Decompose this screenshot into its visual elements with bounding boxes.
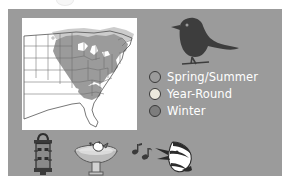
bird-beak: [171, 25, 180, 30]
bird-bath-icon[interactable]: [72, 140, 120, 176]
legend-label-spring-summer: Spring/Summer: [167, 71, 258, 84]
range-map: [22, 18, 137, 130]
year-round-swatch: [149, 88, 161, 100]
bird-perch: [182, 62, 209, 64]
legend-label-winter: Winter: [167, 105, 206, 118]
singing-bird-icon[interactable]: [129, 139, 195, 173]
bird-eye: [186, 24, 189, 27]
spring-summer-swatch: [149, 71, 161, 83]
bird-activity-icon-strip: [22, 130, 212, 176]
songbird-silhouette-icon: [163, 13, 241, 69]
legend-item-spring-summer[interactable]: Spring/Summer: [149, 69, 277, 85]
slide-panel: Spring/Summer Year-Round Winter: [8, 9, 282, 176]
bird-feeder-icon[interactable]: [30, 132, 56, 176]
legend: Spring/Summer Year-Round Winter: [149, 69, 277, 120]
open-beak-lower: [157, 156, 170, 160]
legend-item-winter[interactable]: Winter: [149, 103, 277, 119]
winter-swatch: [149, 105, 161, 117]
bird-body: [180, 18, 239, 57]
legend-label-year-round: Year-Round: [167, 88, 232, 101]
music-notes: [131, 143, 152, 160]
open-beak-upper: [155, 148, 169, 155]
cropped-top-artifact: [56, 0, 74, 6]
legend-item-year-round[interactable]: Year-Round: [149, 86, 277, 102]
